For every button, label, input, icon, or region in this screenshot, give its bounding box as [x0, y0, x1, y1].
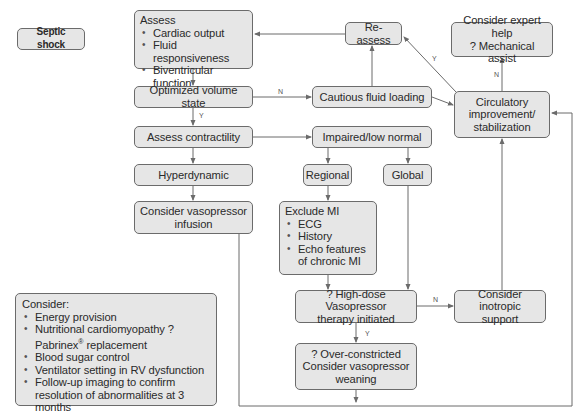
- expert-help-line-2: ? Mechanical assist: [456, 40, 548, 65]
- regional-label: Regional: [306, 169, 349, 182]
- assess-title: Assess: [140, 14, 175, 27]
- consider-item-nutritional-suffix: replacement: [86, 339, 146, 351]
- edge-label-optimized-yes: Y: [199, 112, 204, 119]
- circulatory-line-1: Circulatory: [476, 96, 528, 109]
- consider-item-ventilator: Ventilator setting in RV dysfunction: [22, 364, 210, 377]
- high-dose-line-2: therapy initiated: [317, 313, 394, 326]
- consider-item-nutritional: Nutritional cardiomyopathy ? Pabrinex® r…: [22, 323, 210, 351]
- septic-shock-label: Septic shock: [22, 26, 80, 51]
- vasopressor-infusion-line-1: Consider vasopressor: [140, 205, 247, 218]
- vasopressor-infusion-line-2: infusion: [175, 218, 213, 231]
- exclude-mi-list: ECG History Echo features of chronic MI: [285, 218, 371, 268]
- edge-label-optimized-no: N: [278, 88, 283, 95]
- assess-item-fluid-responsiveness: Fluid responsiveness: [140, 39, 247, 64]
- over-constricted-line-2: Consider vasopressor: [303, 360, 410, 373]
- septic-shock-start-node: Septic shock: [17, 28, 85, 50]
- circulatory-line-3: stabilization: [473, 121, 530, 134]
- exclude-mi-item-history: History: [285, 230, 371, 243]
- circulatory-line-2: improvement/: [469, 108, 536, 121]
- edge-label-high-dose-yes: Y: [365, 330, 370, 337]
- assess-node: Assess Cardiac output Fluid responsivene…: [134, 10, 253, 69]
- regional-node: Regional: [303, 164, 352, 186]
- edge-label-circulatory-yes: Y: [432, 55, 437, 62]
- over-constricted-line-3: weaning: [336, 373, 377, 386]
- global-node: Global: [383, 164, 432, 186]
- high-dose-vasopressor-node: ? High-dose Vasopressor therapy initiate…: [295, 290, 417, 323]
- impaired-label: Impaired/low normal: [323, 131, 422, 144]
- assess-contractility-label: Assess contractility: [147, 131, 240, 144]
- over-constricted-node: ? Over-constricted Consider vasopressor …: [295, 343, 417, 390]
- consider-title: Consider:: [22, 298, 69, 311]
- consider-notes-box: Consider: Energy provision Nutritional c…: [15, 293, 217, 406]
- consider-list: Energy provision Nutritional cardiomyopa…: [22, 311, 210, 414]
- assess-list: Cardiac output Fluid responsiveness Bive…: [140, 27, 247, 90]
- reassess-label: Re-assess: [350, 21, 397, 46]
- expert-help-node: Consider expert help ? Mechanical assist: [451, 22, 553, 57]
- hyperdynamic-label: Hyperdynamic: [158, 169, 228, 182]
- reassess-node: Re-assess: [345, 22, 402, 45]
- consider-item-energy: Energy provision: [22, 311, 210, 324]
- cautious-fluid-label: Cautious fluid loading: [320, 91, 425, 104]
- inotropic-support-node: Consider inotropic support: [454, 290, 546, 323]
- global-label: Global: [392, 169, 424, 182]
- exclude-mi-node: Exclude MI ECG History Echo features of …: [279, 201, 377, 275]
- vasopressor-infusion-node: Consider vasopressor infusion: [134, 201, 253, 234]
- inotropic-line-2: support: [482, 313, 519, 326]
- edge-label-circulatory-no: N: [494, 71, 499, 78]
- exclude-mi-item-echo: Echo features of chronic MI: [285, 243, 371, 268]
- edge-label-high-dose-no: N: [433, 296, 438, 303]
- expert-help-line-1: Consider expert help: [456, 14, 548, 39]
- trademark-symbol: ®: [78, 338, 83, 345]
- exclude-mi-title: Exclude MI: [285, 205, 339, 218]
- septic-shock-flowchart: Septic shock Assess Cardiac output Fluid…: [0, 0, 587, 418]
- cautious-fluid-node: Cautious fluid loading: [312, 86, 432, 108]
- optimized-volume-node: Optimized volume state: [134, 86, 253, 108]
- over-constricted-line-1: ? Over-constricted: [311, 348, 401, 361]
- assess-item-cardiac-output: Cardiac output: [140, 27, 247, 40]
- circulatory-improvement-node: Circulatory improvement/ stabilization: [454, 91, 550, 138]
- exclude-mi-item-ecg: ECG: [285, 218, 371, 231]
- consider-item-follow-up: Follow-up imaging to confirm resolution …: [22, 376, 210, 414]
- inotropic-line-1: Consider inotropic: [459, 288, 541, 313]
- assess-contractility-node: Assess contractility: [134, 126, 253, 148]
- optimized-volume-label: Optimized volume state: [139, 84, 248, 109]
- consider-item-blood-sugar: Blood sugar control: [22, 351, 210, 364]
- high-dose-line-1: ? High-dose Vasopressor: [300, 288, 412, 313]
- impaired-node: Impaired/low normal: [312, 126, 432, 148]
- hyperdynamic-node: Hyperdynamic: [134, 164, 253, 186]
